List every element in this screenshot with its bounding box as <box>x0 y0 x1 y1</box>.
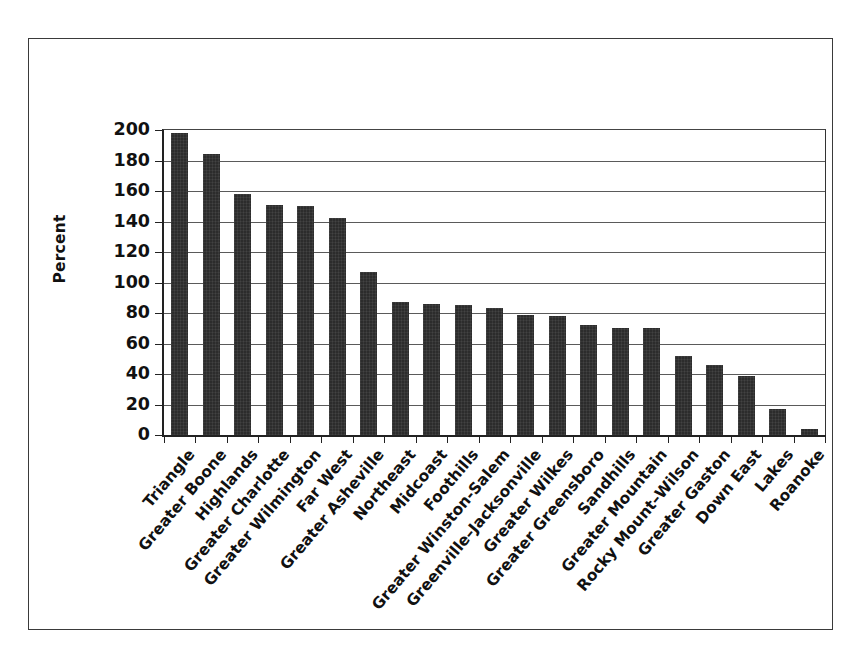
x-tick-mark <box>321 435 322 443</box>
y-tick-label: 180 <box>113 152 150 170</box>
x-tick-mark <box>384 435 385 443</box>
y-tick-mark <box>155 283 163 284</box>
y-tick-mark <box>155 222 163 223</box>
x-tick-mark <box>731 435 732 443</box>
bar <box>706 365 723 435</box>
y-axis-title: Percent <box>51 189 69 309</box>
bar <box>643 328 660 435</box>
x-tick-mark <box>699 435 700 443</box>
x-tick-mark <box>636 435 637 443</box>
bar <box>580 325 597 435</box>
x-tick-mark <box>542 435 543 443</box>
y-tick-label: 160 <box>113 182 150 200</box>
bar <box>203 154 220 435</box>
bar <box>517 315 534 435</box>
plot-area: 200180160140120100806040200 TriangleGrea… <box>162 129 826 437</box>
bar <box>234 194 251 435</box>
bar <box>801 429 818 435</box>
y-tick-label: 60 <box>126 335 150 353</box>
x-tick-mark <box>825 435 826 443</box>
y-tick-mark <box>155 435 163 436</box>
x-tick-mark <box>605 435 606 443</box>
x-tick-mark <box>479 435 480 443</box>
bar <box>297 206 314 435</box>
bar <box>329 218 346 435</box>
gridline <box>164 222 825 223</box>
x-tick-mark <box>290 435 291 443</box>
y-tick-label: 40 <box>126 365 150 383</box>
x-tick-mark <box>416 435 417 443</box>
y-tick-label: 120 <box>113 243 150 261</box>
gridline <box>164 283 825 284</box>
x-tick-mark <box>573 435 574 443</box>
y-tick-label: 0 <box>138 426 150 444</box>
x-tick-mark <box>227 435 228 443</box>
y-tick-label: 100 <box>113 274 150 292</box>
chart-figure-frame: Percent 200180160140120100806040200 Tria… <box>28 38 833 630</box>
x-tick-mark <box>510 435 511 443</box>
bar <box>675 356 692 435</box>
x-tick-mark <box>447 435 448 443</box>
y-tick-mark <box>155 191 163 192</box>
bar <box>266 205 283 435</box>
bar <box>360 272 377 435</box>
bar <box>738 376 755 435</box>
bar <box>486 308 503 435</box>
y-tick-label: 140 <box>113 213 150 231</box>
y-tick-label: 80 <box>126 304 150 322</box>
bar <box>392 302 409 435</box>
y-tick-mark <box>155 344 163 345</box>
y-tick-mark <box>155 252 163 253</box>
y-tick-label: 200 <box>113 121 150 139</box>
y-tick-mark <box>155 374 163 375</box>
x-tick-mark <box>762 435 763 443</box>
y-tick-mark <box>155 161 163 162</box>
bar <box>171 133 188 435</box>
bar <box>769 409 786 435</box>
x-tick-mark <box>258 435 259 443</box>
x-tick-mark <box>195 435 196 443</box>
bar <box>549 316 566 435</box>
x-tick-mark <box>668 435 669 443</box>
y-tick-label: 20 <box>126 396 150 414</box>
x-tick-mark <box>353 435 354 443</box>
gridline <box>164 191 825 192</box>
bar <box>455 305 472 435</box>
bar <box>423 304 440 435</box>
y-tick-mark <box>155 313 163 314</box>
gridline <box>164 161 825 162</box>
y-tick-mark <box>155 405 163 406</box>
bar <box>612 328 629 435</box>
x-tick-mark <box>164 435 165 443</box>
x-tick-mark <box>794 435 795 443</box>
y-tick-mark <box>155 130 163 131</box>
gridline <box>164 252 825 253</box>
